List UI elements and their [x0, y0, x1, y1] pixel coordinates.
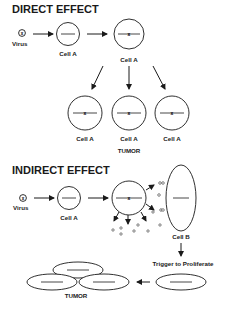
virus-icon: x	[19, 30, 26, 37]
virus-label: Virus	[13, 204, 29, 211]
cell-b-label: Cell B	[172, 233, 190, 240]
daughter-label-1: Cell A	[76, 135, 94, 142]
cell-a-healthy	[57, 23, 80, 46]
cell-a-healthy	[58, 187, 81, 210]
svg-text:x: x	[128, 195, 131, 201]
cell-a-infected: x	[112, 181, 146, 215]
direct-effect-title: DIRECT EFFECT	[12, 3, 99, 15]
daughter-cell-1: x	[68, 96, 102, 130]
svg-text:x: x	[84, 110, 87, 116]
indirect-effect-section: INDIRECT EFFECT x Virus Cell A x	[12, 164, 214, 299]
daughter-label-2: Cell A	[120, 135, 138, 142]
daughter-label-3: Cell A	[163, 135, 181, 142]
cell-b	[166, 165, 196, 231]
direct-effect-section: DIRECT EFFECT x Virus Cell A x Cell A	[12, 3, 189, 154]
svg-text:x: x	[128, 31, 131, 37]
indirect-tumor-label: TUMOR	[65, 292, 88, 299]
diagram-canvas: DIRECT EFFECT x Virus Cell A x Cell A	[0, 0, 228, 314]
daughter-cell-3: x	[155, 96, 189, 130]
virus-label: Virus	[12, 40, 28, 47]
arrow-icon	[153, 66, 165, 89]
daughter-cell-2: x	[112, 96, 146, 130]
direct-tumor-label: TUMOR	[118, 147, 141, 154]
arrow-icon	[92, 66, 103, 89]
cell-a-label: Cell A	[60, 214, 78, 221]
cell-a-infected: x	[114, 19, 144, 49]
trigger-label: Trigger to Proliferate	[153, 260, 214, 267]
svg-text:x: x	[171, 110, 174, 116]
virus-icon: x	[20, 195, 27, 202]
tumor-cluster	[27, 262, 129, 290]
cell-a-label: Cell A	[59, 50, 77, 57]
cell-a-infected-label: Cell A	[120, 56, 138, 63]
indirect-effect-title: INDIRECT EFFECT	[12, 164, 110, 176]
proliferating-cell-b	[156, 274, 206, 290]
svg-text:x: x	[128, 110, 131, 116]
